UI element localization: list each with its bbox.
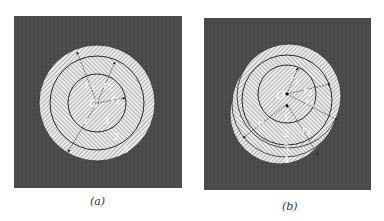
center-label-o: O xyxy=(276,89,285,102)
caption-a: (a) xyxy=(90,195,105,208)
region-label-3: 3 xyxy=(283,142,289,153)
caption-b: (b) xyxy=(282,200,298,213)
panel-a: O r3 r2 r1 r 1 2 3 (a) xyxy=(14,16,182,208)
region-label-1: 1 xyxy=(104,115,110,126)
region-label-1: 1 xyxy=(283,112,289,123)
panel-b: O r1 r2 r3 r4 r 1 2 3 4 (b) xyxy=(204,18,371,213)
center-point-o xyxy=(285,92,288,95)
region-label-2: 2 xyxy=(283,128,289,139)
region-label-4: 4 xyxy=(283,154,289,165)
region-label-2: 2 xyxy=(113,131,119,142)
offset-center-point xyxy=(286,105,289,108)
figure: O r3 r2 r1 r 1 2 3 (a) O r1 r2 r3 r4 r 1… xyxy=(0,0,384,221)
region-label-3: 3 xyxy=(122,144,128,155)
center-label-o: O xyxy=(89,97,98,110)
